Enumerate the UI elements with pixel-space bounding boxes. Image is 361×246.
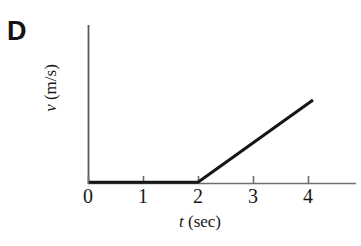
x-tick-label-1: 1 bbox=[138, 185, 148, 207]
y-axis-variable: v bbox=[41, 104, 60, 112]
x-tick-label-0: 0 bbox=[83, 185, 93, 207]
x-tick-label-4: 4 bbox=[303, 185, 313, 207]
x-axis-tick-labels: 0 1 2 3 4 bbox=[83, 185, 313, 207]
x-axis-label: t (sec) bbox=[140, 212, 260, 232]
velocity-data-line bbox=[89, 100, 313, 182]
x-axis-unit: (sec) bbox=[188, 212, 221, 231]
velocity-time-graph-figure: D 0 1 2 3 4 v (m/s) t (sec) bbox=[0, 0, 361, 246]
x-tick-label-2: 2 bbox=[193, 185, 203, 207]
x-tick-label-3: 3 bbox=[248, 185, 258, 207]
y-axis-label: v (m/s) bbox=[41, 28, 61, 148]
y-axis-unit: (m/s) bbox=[41, 64, 60, 100]
